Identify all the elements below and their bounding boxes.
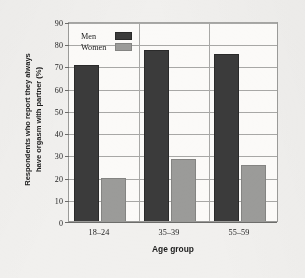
legend-label-men: Men [81,32,115,41]
y-axis-title-line-2: have orgasm with partner (%) [33,53,44,186]
plot-area: 9080706050403020100MenWomen [68,22,278,222]
y-axis-tick-label-70: 70 [55,63,63,72]
y-axis-title: Respondents who report they always have … [16,0,50,238]
bar-men-55-59 [214,54,239,221]
chart-legend: MenWomen [81,31,132,52]
y-axis-tick-label-80: 80 [55,41,63,50]
y-axis-tick-label-30: 30 [55,152,63,161]
legend-item-men: Men [81,31,132,41]
y-axis-tick-label-50: 50 [55,108,63,117]
bar-men-35-39 [144,50,169,221]
y-axis-tick-50 [65,112,69,113]
group-separator-2 [209,23,210,221]
bar-women-18-24 [101,178,126,221]
y-axis-tick-20 [65,179,69,180]
gridline-0 [69,222,277,223]
gridline-90 [69,23,277,24]
y-axis-tick-label-60: 60 [55,86,63,95]
bar-men-18-24 [74,65,99,221]
x-axis-tick-label-1: 35–39 [159,228,180,237]
legend-swatch-women-icon [115,43,132,51]
legend-swatch-men-icon [115,32,132,40]
bar-women-55-59 [241,165,266,221]
y-axis-tick-label-0: 0 [59,219,63,228]
y-axis-tick-label-10: 10 [55,197,63,206]
y-axis-tick-label-90: 90 [55,19,63,28]
y-axis-tick-60 [65,90,69,91]
bar-women-35-39 [171,159,196,221]
chart-figure: Respondents who report they always have … [0,0,305,278]
x-axis-tick-label-2: 55–59 [229,228,250,237]
gridline-70 [69,67,277,68]
group-separator-1 [139,23,140,221]
x-axis-tick-label-0: 18–24 [89,228,110,237]
legend-item-women: Women [81,42,132,52]
gridline-30 [69,156,277,157]
y-axis-tick-70 [65,67,69,68]
y-axis-title-line-1: Respondents who report they always [23,53,34,186]
gridline-40 [69,134,277,135]
gridline-50 [69,112,277,113]
y-axis-tick-30 [65,156,69,157]
y-axis-tick-40 [65,134,69,135]
gridline-60 [69,90,277,91]
y-axis-tick-label-40: 40 [55,130,63,139]
y-axis-tick-label-20: 20 [55,175,63,184]
y-axis-tick-90 [65,23,69,24]
legend-label-women: Women [81,43,115,52]
y-axis-tick-10 [65,201,69,202]
y-axis-tick-80 [65,45,69,46]
x-axis-title: Age group [68,244,278,254]
y-axis-tick-0 [65,222,69,223]
